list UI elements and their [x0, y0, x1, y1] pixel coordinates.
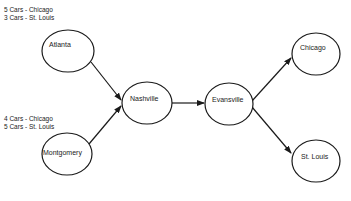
atlanta-supply-stlouis: 3 Cars - St. Louis [4, 14, 54, 22]
node-chicago-label: Chicago [300, 44, 326, 52]
node-montgomery[interactable]: Montgomery [42, 133, 92, 175]
node-nashville-ellipse [122, 82, 172, 124]
network-diagram: Atlanta Montgomery Nashville Evansville … [0, 0, 351, 201]
node-chicago-ellipse [292, 33, 340, 75]
node-evansville-ellipse [205, 83, 253, 125]
node-nashville-label: Nashville [130, 95, 159, 102]
node-evansville[interactable]: Evansville [205, 83, 253, 125]
diagram-canvas: Atlanta Montgomery Nashville Evansville … [0, 0, 351, 201]
node-atlanta-ellipse [42, 30, 94, 72]
atlanta-supply-chicago: 5 Cars - Chicago [4, 6, 54, 14]
node-montgomery-label: Montgomery [43, 149, 82, 157]
montgomery-supply-note: 4 Cars - Chicago 5 Cars - St. Louis [4, 115, 54, 131]
edge-atlanta-nashville [91, 62, 121, 100]
node-evansville-label: Evansville [212, 96, 244, 103]
atlanta-supply-note: 5 Cars - Chicago 3 Cars - St. Louis [4, 6, 54, 22]
montgomery-supply-stlouis: 5 Cars - St. Louis [4, 123, 54, 131]
node-atlanta[interactable]: Atlanta [42, 30, 94, 72]
montgomery-supply-chicago: 4 Cars - Chicago [4, 115, 54, 123]
edge-montgomery-nashville [89, 106, 121, 144]
edge-evansville-chicago [252, 58, 291, 101]
node-stlouis-label: St. Louis [301, 153, 329, 160]
node-atlanta-label: Atlanta [49, 41, 71, 48]
node-stlouis-ellipse [292, 140, 340, 182]
edge-evansville-stlouis [252, 107, 291, 153]
node-stlouis[interactable]: St. Louis [292, 140, 340, 182]
node-nashville[interactable]: Nashville [122, 82, 172, 124]
node-chicago[interactable]: Chicago [292, 33, 340, 75]
